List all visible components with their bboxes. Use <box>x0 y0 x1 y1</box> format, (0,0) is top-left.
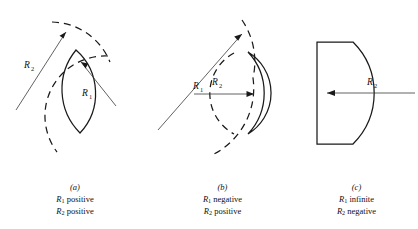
panel-b-letter: (b) <box>150 182 295 193</box>
dashed-arc-r1 <box>45 56 108 152</box>
r1-arrowhead <box>234 34 242 41</box>
panel-b: R 1 R 2 (b) R1 negative R2 positive <box>150 0 295 229</box>
panel-c: R 2 (c) R1 infinite R2 negative <box>295 0 418 229</box>
panel-a-letter: (a) <box>0 182 150 193</box>
label-r2-subscript: 2 <box>31 65 34 72</box>
r2-arrowhead <box>60 32 67 38</box>
label-r1: R <box>192 81 199 91</box>
panel-b-caption: (b) R1 negative R2 positive <box>150 182 295 219</box>
panel-a-drawing: R 2 R 1 <box>0 0 150 180</box>
panel-c-letter: (c) <box>295 182 418 193</box>
panel-c-caption: (c) R1 infinite R2 negative <box>295 182 418 219</box>
dashed-arc-r2 <box>210 53 234 134</box>
panel-c-caption-line-2: R2 negative <box>295 206 418 219</box>
panel-a-caption-line-2: R2 positive <box>0 206 150 219</box>
label-r1-subscript: 1 <box>200 86 203 93</box>
panel-a-caption: (a) R1 positive R2 positive <box>0 182 150 219</box>
label-r2: R <box>211 77 218 87</box>
panel-a-caption-line-1: R1 positive <box>0 194 150 207</box>
label-r2-subscript: 2 <box>374 82 377 89</box>
r1-leader-line <box>81 62 116 106</box>
panel-b-caption-line-1: R1 negative <box>150 194 295 207</box>
r2-arrowhead <box>327 90 335 96</box>
label-r1-subscript: 1 <box>89 93 92 100</box>
panel-c-caption-line-1: R1 infinite <box>295 194 418 207</box>
panel-b-drawing: R 1 R 2 <box>150 0 295 180</box>
panel-a: R 2 R 1 (a) R1 positive R2 positive <box>0 0 150 229</box>
panel-c-drawing: R 2 <box>295 0 418 180</box>
lens-radius-sign-convention-figure: R 2 R 1 (a) R1 positive R2 positive R <box>0 0 418 229</box>
panel-b-caption-line-2: R2 positive <box>150 206 295 219</box>
label-r1: R <box>81 88 88 98</box>
label-r2-subscript: 2 <box>219 82 222 89</box>
r2-leader-line <box>16 32 66 110</box>
label-r2: R <box>23 60 30 70</box>
label-r2: R <box>366 77 373 87</box>
r1-leader-line <box>158 34 242 130</box>
